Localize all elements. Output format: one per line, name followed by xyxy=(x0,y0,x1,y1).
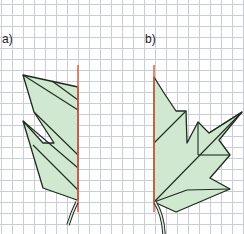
stem-b xyxy=(155,202,164,234)
grid-paper: a) b) xyxy=(0,0,244,234)
leaf-a xyxy=(23,65,78,225)
leaf-b xyxy=(154,65,242,234)
leaf-figures xyxy=(0,0,244,234)
